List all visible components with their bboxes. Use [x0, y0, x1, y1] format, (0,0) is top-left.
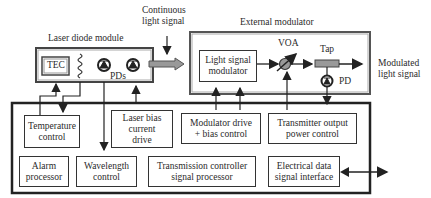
modulated-label-1: Modulated: [378, 58, 419, 69]
voa-label: VOA: [278, 38, 299, 49]
photodiode-icon: [98, 59, 110, 71]
alarm-processor-block: Alarm processor: [19, 156, 69, 187]
photodiode-icon: [127, 59, 139, 71]
block-line: Alarm: [32, 161, 56, 172]
laser-bias-block: Laser bias current drive: [111, 110, 173, 148]
block-line: power control: [286, 129, 339, 140]
temperature-control-block: Temperature control: [24, 115, 80, 148]
electrical-interface-block: Electrical data signal interface: [268, 156, 340, 187]
block-line: Temperature: [28, 121, 76, 132]
external-modulator-label: External modulator: [240, 17, 314, 28]
transmitter-output-block: Transmitter output power control: [268, 113, 357, 144]
tap-label: Tap: [320, 44, 334, 55]
block-line: drive: [132, 135, 152, 146]
block-line: Electrical data: [277, 161, 332, 172]
tec-label: TEC: [47, 60, 65, 71]
continuous-light-label-2: light signal: [142, 16, 185, 27]
laser-module-label: Laser diode module: [48, 33, 123, 44]
block-line: control: [93, 172, 120, 183]
block-line: current: [129, 124, 156, 135]
pd-label: PD: [339, 76, 351, 87]
modulated-label-2: light signal: [378, 69, 421, 80]
block-line: Wavelength: [84, 161, 129, 172]
tap-icon: [315, 60, 339, 67]
wavelength-control-block: Wavelength control: [76, 156, 137, 187]
block-line: Laser bias: [123, 113, 162, 124]
light-signal-modulator-block: Light signal modulator: [199, 50, 257, 82]
block-line: Light signal: [205, 55, 251, 66]
pds-label: PDs: [110, 71, 126, 82]
block-line: + bias control: [195, 129, 247, 140]
block-line: processor: [26, 172, 62, 183]
light-arrow-icon: [149, 58, 184, 70]
transmission-controller-block: Transmission controller signal processor: [148, 156, 256, 187]
block-line: Transmission controller: [157, 161, 247, 172]
block-line: signal processor: [171, 172, 232, 183]
modulator-drive-block: Modulator drive + bias control: [181, 113, 261, 144]
block-line: Transmitter output: [277, 118, 348, 129]
transmitter-block-diagram: Laser diode module Continuous light sign…: [0, 0, 431, 198]
continuous-light-label-1: Continuous: [142, 5, 186, 16]
block-line: signal interface: [275, 172, 333, 183]
block-line: Modulator drive: [190, 118, 252, 129]
tap-photodiode-icon: [322, 76, 333, 87]
block-line: modulator: [208, 66, 247, 77]
block-line: control: [39, 132, 66, 143]
